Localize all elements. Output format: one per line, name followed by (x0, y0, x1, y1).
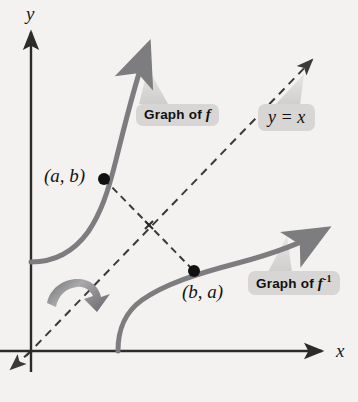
line-y-equals-x-lower-arrow (11, 352, 30, 369)
callout-tail-graph-of-f (139, 68, 168, 104)
callout-graph-of-f-inverse-prefix: Graph of (256, 276, 318, 291)
reflection-arrow-icon (47, 279, 110, 312)
y-axis-label: y (26, 4, 34, 23)
point-marker-a-b (98, 173, 110, 185)
diagram-canvas (0, 0, 358, 402)
x-axis-label: x (336, 341, 344, 360)
callout-graph-of-f-inverse-superscript: -1 (323, 273, 332, 284)
curve-graph-of-f (31, 46, 148, 262)
callout-line-equation: y = x (258, 104, 315, 131)
callout-graph-of-f-inverse: Graph of f-1 (248, 271, 340, 295)
point-marker-b-a (188, 265, 200, 277)
perpendicular-tick-icon (145, 221, 153, 229)
callout-tail-line-equation (274, 74, 304, 106)
inverse-function-diagram: y x (a, b) (b, a) Graph of f y = x Graph… (0, 0, 358, 402)
callout-graph-of-f-symbol: f (206, 106, 211, 122)
callout-graph-of-f: Graph of f (136, 104, 219, 126)
point-label-b-a: (b, a) (182, 282, 223, 301)
point-label-a-b: (a, b) (44, 166, 85, 185)
callout-graph-of-f-prefix: Graph of (144, 107, 206, 122)
